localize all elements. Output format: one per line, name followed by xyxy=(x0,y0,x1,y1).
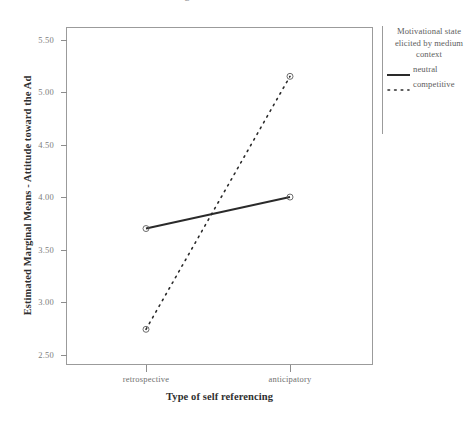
y-tick-label: 2.50 xyxy=(38,350,54,360)
y-axis: 2.503.003.504.004.505.005.50 xyxy=(0,0,66,425)
y-tick-label: 3.00 xyxy=(38,297,54,307)
x-tick-label: retrospective xyxy=(123,374,170,384)
legend-line-sample-dotted xyxy=(387,80,410,89)
y-tick-label: 4.00 xyxy=(38,192,54,202)
legend: Motivational state elicited by medium co… xyxy=(382,26,471,134)
legend-label: competitive xyxy=(413,79,455,89)
y-tick-label: 5.00 xyxy=(38,87,54,97)
y-tick-label: 5.50 xyxy=(38,35,54,45)
y-axis-title: Estimated Marginal Means - Attitude towa… xyxy=(22,46,33,346)
plot-series-layer xyxy=(66,27,373,365)
x-axis-title: Type of self referencing xyxy=(66,391,373,402)
y-tick-label: 3.50 xyxy=(38,245,54,255)
legend-entry-competitive[interactable]: competitive xyxy=(387,78,471,91)
series-line-competitive xyxy=(146,76,290,329)
legend-line-sample-solid xyxy=(387,65,410,74)
x-tick-mark xyxy=(290,365,291,372)
legend-title: Motivational state elicited by medium co… xyxy=(387,26,471,61)
legend-items: neutralcompetitive xyxy=(387,63,471,91)
page-title: Estimated Marginal Means of Attitude tow… xyxy=(0,0,471,5)
x-tick-mark xyxy=(146,365,147,372)
legend-label: neutral xyxy=(413,64,438,74)
y-tick-label: 4.50 xyxy=(38,140,54,150)
x-tick-label: anticipatory xyxy=(269,374,312,384)
legend-entry-neutral[interactable]: neutral xyxy=(387,63,471,76)
